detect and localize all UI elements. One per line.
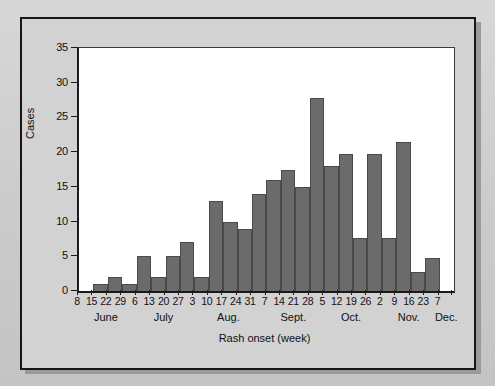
bar-slot bbox=[209, 48, 223, 291]
bar bbox=[151, 277, 165, 291]
x-tick-label: 7 bbox=[262, 295, 268, 307]
x-tick-label: 2 bbox=[377, 295, 383, 307]
bar bbox=[281, 170, 295, 292]
bar-slot bbox=[396, 48, 410, 291]
month-label: Nov. bbox=[398, 311, 420, 323]
bar-slot bbox=[310, 48, 324, 291]
bar bbox=[166, 256, 180, 291]
bar-slot bbox=[79, 48, 93, 291]
y-tick-label: 30 bbox=[56, 74, 68, 90]
plot-area bbox=[77, 47, 455, 293]
bar bbox=[108, 277, 122, 291]
month-label: June bbox=[94, 311, 118, 323]
bar bbox=[194, 277, 208, 291]
bar-slot bbox=[411, 48, 425, 291]
y-tick-label: 15 bbox=[56, 178, 68, 194]
x-axis-title: Rash onset (week) bbox=[77, 332, 452, 344]
bar-slot bbox=[281, 48, 295, 291]
bar-slot bbox=[166, 48, 180, 291]
bar-slot bbox=[151, 48, 165, 291]
bar bbox=[180, 242, 194, 291]
y-tick: 10 bbox=[22, 221, 77, 222]
bar-slot bbox=[180, 48, 194, 291]
bar-slot bbox=[382, 48, 396, 291]
y-tick-label: 0 bbox=[62, 282, 68, 298]
y-tick: 25 bbox=[22, 116, 77, 117]
y-tick-label: 35 bbox=[56, 39, 68, 55]
bar bbox=[396, 142, 410, 291]
month-label: Oct. bbox=[341, 311, 361, 323]
bar bbox=[353, 238, 367, 291]
y-tick: 5 bbox=[22, 255, 77, 256]
x-tick-label: 5 bbox=[319, 295, 325, 307]
x-tick-label: 15 bbox=[86, 295, 97, 307]
x-tick-label: 23 bbox=[418, 295, 429, 307]
x-tick-label: 9 bbox=[392, 295, 398, 307]
bar-slot bbox=[122, 48, 136, 291]
bar bbox=[324, 166, 338, 291]
x-tick-label: 20 bbox=[158, 295, 169, 307]
y-tick: 20 bbox=[22, 151, 77, 152]
x-tick-label: 27 bbox=[172, 295, 183, 307]
bar-series bbox=[79, 48, 454, 291]
x-tick-label: 16 bbox=[403, 295, 414, 307]
y-tick-label: 10 bbox=[56, 213, 68, 229]
y-tick-label: 20 bbox=[56, 143, 68, 159]
y-tick: 0 bbox=[22, 290, 77, 291]
bar bbox=[411, 272, 425, 291]
bar-slot bbox=[339, 48, 353, 291]
bar bbox=[238, 229, 252, 291]
x-tick-label: 7 bbox=[435, 295, 441, 307]
x-tick-label: 29 bbox=[115, 295, 126, 307]
x-tick-label: 3 bbox=[190, 295, 196, 307]
month-label: July bbox=[154, 311, 174, 323]
x-tick-label: 10 bbox=[201, 295, 212, 307]
x-tick-label-group: 8152229613202731017243171421285121926291… bbox=[77, 295, 452, 310]
bar-slot bbox=[137, 48, 151, 291]
bar bbox=[367, 154, 381, 291]
y-tick-label: 5 bbox=[62, 247, 68, 263]
figure-panel: Cases 05101520253035 8152229613202731017… bbox=[20, 17, 476, 370]
y-axis-title: Cases bbox=[24, 108, 36, 139]
epidemic-curve-chart: Cases 05101520253035 8152229613202731017… bbox=[22, 19, 478, 372]
bar bbox=[425, 258, 439, 291]
x-tick-label: 8 bbox=[74, 295, 80, 307]
y-axis: Cases 05101520253035 bbox=[22, 19, 77, 292]
bar-slot bbox=[252, 48, 266, 291]
bar bbox=[137, 256, 151, 291]
bar-slot bbox=[367, 48, 381, 291]
bar bbox=[382, 238, 396, 291]
x-tick-label: 26 bbox=[360, 295, 371, 307]
y-tick: 35 bbox=[22, 47, 77, 48]
bar bbox=[209, 201, 223, 291]
x-tick-label: 12 bbox=[331, 295, 342, 307]
bar bbox=[310, 98, 324, 291]
bar-slot bbox=[295, 48, 309, 291]
x-tick-label: 28 bbox=[302, 295, 313, 307]
month-label: Dec. bbox=[435, 311, 458, 323]
bar-slot bbox=[266, 48, 280, 291]
bar-slot bbox=[223, 48, 237, 291]
x-tick-label: 14 bbox=[273, 295, 284, 307]
bar-slot bbox=[324, 48, 338, 291]
x-tick-label: 24 bbox=[230, 295, 241, 307]
x-tick-label: 21 bbox=[288, 295, 299, 307]
bar bbox=[223, 222, 237, 291]
x-tick-label: 19 bbox=[345, 295, 356, 307]
x-tick-label: 6 bbox=[132, 295, 138, 307]
bar-slot bbox=[108, 48, 122, 291]
bar-slot bbox=[194, 48, 208, 291]
month-label: Sept. bbox=[281, 311, 307, 323]
x-tick-label: 31 bbox=[245, 295, 256, 307]
month-label-group: JuneJulyAug.Sept.Oct.Nov.Dec. bbox=[77, 311, 452, 327]
bar-slot bbox=[440, 48, 454, 291]
bar bbox=[295, 187, 309, 291]
x-tick-label: 13 bbox=[144, 295, 155, 307]
bar bbox=[266, 180, 280, 291]
bar bbox=[252, 194, 266, 291]
bar-slot bbox=[353, 48, 367, 291]
month-label: Aug. bbox=[217, 311, 240, 323]
y-tick: 15 bbox=[22, 186, 77, 187]
y-tick: 30 bbox=[22, 82, 77, 83]
bar-slot bbox=[238, 48, 252, 291]
